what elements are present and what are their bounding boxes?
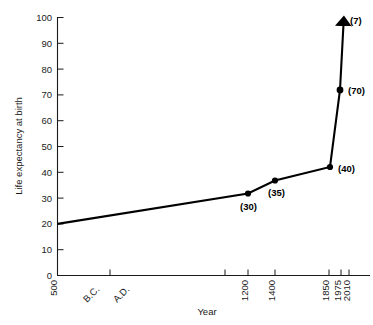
life-expectancy-series-line	[58, 24, 344, 224]
y-tick-label-0: 0	[47, 270, 52, 281]
y-tick-label-90: 90	[41, 38, 52, 49]
data-point-label-70: (70)	[348, 85, 365, 96]
y-tick-label-60: 60	[41, 115, 52, 126]
data-point-labels: (30) (35) (40) (70) (7)	[240, 15, 365, 212]
y-tick-label-20: 20	[41, 218, 52, 229]
data-point-label-7: (7)	[350, 15, 362, 26]
data-point-1200	[245, 190, 251, 196]
y-axis-title: Life expectancy at birth	[13, 97, 24, 195]
x-axis-tick-labels: 500 B.C. A.D. 1200 1400 1850 1975 2010	[48, 280, 352, 304]
data-point-1975	[337, 87, 344, 94]
x-tick-label-1400: 1400	[266, 280, 277, 301]
data-point-label-35: (35)	[268, 187, 285, 198]
chart-canvas: 100 90 80 70 60 50 40 30 20 10 0 Life ex…	[0, 0, 373, 325]
series-data-points	[245, 87, 344, 197]
y-tick-label-10: 10	[41, 244, 52, 255]
x-tick-label-500: 500	[48, 280, 59, 296]
data-point-1400	[272, 177, 278, 183]
y-tick-label-100: 100	[36, 12, 52, 23]
x-axis-title: Year	[197, 306, 216, 317]
x-axis-ticks	[58, 270, 350, 276]
y-axis-tick-labels: 100 90 80 70 60 50 40 30 20 10 0	[36, 12, 52, 281]
x-tick-label-1850: 1850	[320, 280, 331, 301]
y-tick-label-80: 80	[41, 64, 52, 75]
y-tick-label-70: 70	[41, 89, 52, 100]
y-tick-label-50: 50	[41, 141, 52, 152]
life-expectancy-chart: 100 90 80 70 60 50 40 30 20 10 0 Life ex…	[0, 0, 373, 325]
x-tick-label-ad: A.D.	[111, 284, 132, 305]
x-tick-label-bc: B.C.	[81, 284, 102, 305]
data-point-1850	[327, 164, 333, 170]
data-point-label-40: (40)	[338, 163, 355, 174]
x-tick-label-1200: 1200	[239, 280, 250, 301]
x-tick-label-2010: 2010	[341, 280, 352, 301]
y-tick-label-40: 40	[41, 167, 52, 178]
data-point-label-30: (30)	[240, 201, 257, 212]
y-tick-label-30: 30	[41, 193, 52, 204]
y-axis-ticks	[58, 18, 64, 276]
